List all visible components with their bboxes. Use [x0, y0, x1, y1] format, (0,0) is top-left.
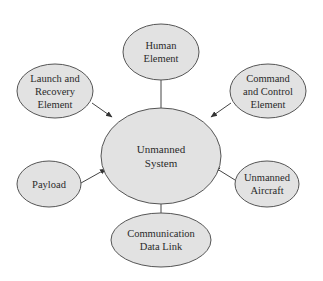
label-line: Communication: [127, 227, 195, 240]
label-line: System: [137, 156, 185, 170]
node-label-launch-recovery-element: Launch and Recovery Element: [30, 72, 79, 111]
node-label-command-control-element: Command and Control Element: [243, 72, 293, 111]
node-label-human-element: Human Element: [144, 39, 179, 65]
label-line: Unmanned: [137, 142, 185, 156]
label-line: Element: [243, 98, 293, 111]
label-line: Human: [144, 39, 179, 52]
edge-payload-to-system: [81, 169, 106, 183]
label-line: Data Link: [127, 240, 195, 253]
label-line: Recovery: [30, 85, 79, 98]
node-label-unmanned-aircraft: Unmanned Aircraft: [244, 171, 290, 197]
node-label-communication-data-link: Communication Data Link: [127, 227, 195, 253]
label-line: and Control: [243, 85, 293, 98]
label-line: Unmanned: [244, 171, 290, 184]
label-line: Command: [243, 72, 293, 85]
label-line: Aircraft: [244, 184, 290, 197]
edge-command-to-system: [211, 103, 231, 117]
node-label-payload: Payload: [32, 178, 66, 191]
label-line: Element: [30, 98, 79, 111]
label-line: Element: [144, 52, 179, 65]
edge-launch-to-system: [92, 103, 112, 117]
node-label-unmanned-system: Unmanned System: [137, 142, 185, 170]
label-line: Launch and: [30, 72, 79, 85]
label-line: Payload: [32, 178, 66, 191]
